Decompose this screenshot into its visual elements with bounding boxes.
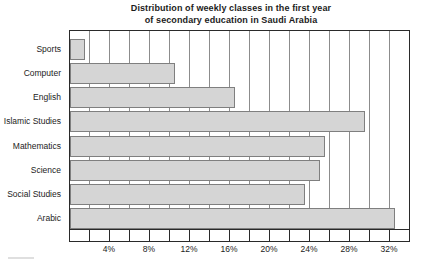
chart-title: Distribution of weekly classes in the fi…	[40, 3, 422, 26]
category-label-islamic-studies: Islamic Studies	[0, 116, 65, 127]
bar-mathematics	[70, 136, 325, 157]
x-tick-24pct	[309, 230, 310, 241]
category-label-computer: Computer	[0, 68, 65, 79]
x-tick-label-4pct: 4%	[89, 244, 129, 254]
x-tick-18pct	[249, 230, 250, 241]
x-tick-2pct	[89, 230, 90, 241]
x-tick-label-24pct: 24%	[289, 244, 329, 254]
gridline-32pct	[389, 31, 390, 229]
x-axis-strip	[69, 230, 410, 242]
x-tick-4pct	[109, 230, 110, 241]
cropped-caption-fragment	[8, 257, 34, 259]
x-tick-label-16pct: 16%	[209, 244, 249, 254]
x-tick-12pct	[189, 230, 190, 241]
chart-title-line1: Distribution of weekly classes in the fi…	[40, 3, 422, 15]
category-label-science: Science	[0, 165, 65, 176]
x-tick-10pct	[169, 230, 170, 241]
x-tick-8pct	[149, 230, 150, 241]
x-tick-16pct	[229, 230, 230, 241]
plot-area	[69, 30, 410, 230]
chart-canvas: Distribution of weekly classes in the fi…	[0, 0, 422, 265]
category-label-english: English	[0, 92, 65, 103]
x-tick-14pct	[209, 230, 210, 241]
x-tick-22pct	[289, 230, 290, 241]
x-tick-label-32pct: 32%	[369, 244, 409, 254]
x-tick-26pct	[329, 230, 330, 241]
bar-social-studies	[70, 184, 305, 205]
x-tick-label-28pct: 28%	[329, 244, 369, 254]
chart-title-line2: of secondary education in Saudi Arabia	[40, 15, 422, 27]
category-label-mathematics: Mathematics	[0, 141, 65, 152]
x-tick-32pct	[389, 230, 390, 241]
x-tick-28pct	[349, 230, 350, 241]
gridline-30pct	[369, 31, 370, 229]
bar-science	[70, 160, 320, 181]
x-tick-label-8pct: 8%	[129, 244, 169, 254]
bar-english	[70, 87, 235, 108]
x-tick-label-20pct: 20%	[249, 244, 289, 254]
x-tick-6pct	[129, 230, 130, 241]
x-tick-label-12pct: 12%	[169, 244, 209, 254]
bar-computer	[70, 63, 175, 84]
bar-islamic-studies	[70, 111, 365, 132]
category-label-sports: Sports	[0, 44, 65, 55]
bar-sports	[70, 39, 85, 60]
bar-arabic	[70, 208, 395, 229]
x-tick-20pct	[269, 230, 270, 241]
category-label-arabic: Arabic	[0, 213, 65, 224]
category-label-social-studies: Social Studies	[0, 189, 65, 200]
x-tick-30pct	[369, 230, 370, 241]
